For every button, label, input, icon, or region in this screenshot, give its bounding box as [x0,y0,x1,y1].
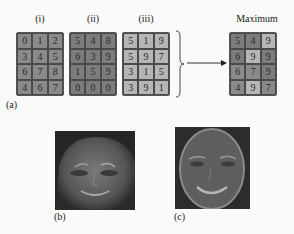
grid-cell: 5 [70,33,85,49]
maximum-cell: 9 [261,49,276,65]
grid-cell: 3 [123,80,138,96]
grid-cell: 7 [48,80,63,96]
grid-cell: 7 [32,64,47,80]
grid-ii-label: (ii) [69,13,117,24]
grid-cell: 0 [17,33,32,49]
grid-cell: 2 [48,33,63,49]
grid-cell: 1 [70,64,85,80]
grid-cell: 5 [123,33,138,49]
face-edge-image [175,127,250,209]
grid-cell: 4 [85,33,100,49]
maximum-cell: 7 [261,80,276,96]
maximum-cell: 6 [230,49,245,65]
maximum-cell: 9 [245,80,260,96]
maximum-grid: 549699679497 [229,32,277,96]
grid-cell: 7 [154,49,169,65]
grid-cell: 6 [17,64,32,80]
grid-cell: 0 [70,80,85,96]
grid-cell: 3 [85,49,100,65]
grid-cell: 8 [101,33,116,49]
grid-cell: 5 [48,49,63,65]
maximum-cell: 9 [245,49,260,65]
grid-cell: 9 [154,33,169,49]
grid-cell: 3 [17,49,32,65]
grid-ii: 548639159000 [69,32,117,96]
grid-i: 012345678467 [16,32,64,96]
grid-iii: 519597315391 [122,32,170,96]
grid-cell: 4 [32,49,47,65]
maximum-cell: 4 [245,33,260,49]
maximum-cell: 7 [245,64,260,80]
grid-cell: 1 [138,33,153,49]
maximum-label: Maximum [222,13,292,24]
grid-cell: 6 [70,49,85,65]
brace-icon [175,30,185,98]
grid-cell: 9 [101,49,116,65]
grid-cell: 5 [85,64,100,80]
grid-cell: 5 [154,64,169,80]
grid-cell: 9 [101,64,116,80]
grid-cell: 0 [85,80,100,96]
maximum-cell: 4 [230,80,245,96]
grid-cell: 5 [123,49,138,65]
panel-b-label: (b) [54,211,66,222]
maximum-cell: 9 [261,33,276,49]
grid-cell: 0 [101,80,116,96]
grid-cell: 9 [138,80,153,96]
grid-cell: 6 [32,80,47,96]
grid-cell: 1 [154,80,169,96]
grid-iii-label: (iii) [122,13,170,24]
grid-i-label: (i) [16,13,64,24]
grid-cell: 4 [17,80,32,96]
maximum-cell: 6 [230,64,245,80]
grid-cell: 9 [138,49,153,65]
grid-cell: 1 [32,33,47,49]
face-photo-image [55,131,135,210]
grid-cell: 8 [48,64,63,80]
arrow-right-icon [187,58,227,68]
panel-c-label: (c) [174,211,185,222]
maximum-cell: 9 [261,64,276,80]
panel-a-label: (a) [6,99,17,110]
grid-cell: 1 [138,64,153,80]
maximum-cell: 5 [230,33,245,49]
grid-cell: 3 [123,64,138,80]
